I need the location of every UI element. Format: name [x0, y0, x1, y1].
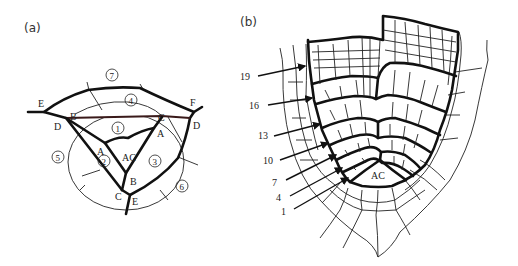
left-segment-border — [308, 40, 350, 182]
panel-b-label: (b) — [240, 15, 257, 29]
segment-7: 7 — [106, 69, 118, 81]
arrow-7 — [286, 155, 336, 180]
svg-text:1: 1 — [116, 124, 121, 134]
panel-a-label: (a) — [24, 21, 41, 35]
svg-text:3: 3 — [153, 157, 158, 167]
arrow-19 — [258, 66, 305, 76]
label-AC: AC — [371, 170, 385, 181]
label-C: C — [158, 112, 165, 123]
label-E: E — [38, 98, 44, 109]
label-13: 13 — [258, 130, 268, 141]
arrow-16 — [268, 98, 312, 105]
label-19: 19 — [240, 71, 250, 82]
segment-6: 6 — [176, 180, 188, 192]
label-C: C — [115, 191, 122, 202]
label-F: F — [190, 97, 196, 108]
label-4: 4 — [276, 192, 281, 203]
svg-text:2: 2 — [102, 157, 107, 167]
svg-text:6: 6 — [180, 182, 185, 192]
label-B: B — [70, 111, 77, 122]
segment-5: 5 — [52, 151, 64, 163]
label-16: 16 — [249, 100, 259, 111]
label-D: D — [193, 120, 200, 131]
label-A: A — [157, 128, 165, 139]
panel-a: (a) E F B D C D — [24, 21, 202, 214]
label-AC: AC — [122, 152, 136, 163]
svg-text:4: 4 — [129, 96, 134, 106]
label-B: B — [130, 176, 137, 187]
svg-text:7: 7 — [110, 71, 115, 81]
arrow-4 — [290, 168, 342, 196]
figure: (a) E F B D C D — [0, 0, 518, 266]
label-E: E — [132, 196, 138, 207]
arrow-1 — [294, 178, 348, 209]
svg-text:5: 5 — [56, 153, 61, 163]
label-7: 7 — [272, 177, 277, 188]
arrow-10 — [280, 143, 328, 160]
label-D: D — [54, 121, 61, 132]
panel-b: (b) AC — [240, 15, 488, 257]
label-1: 1 — [281, 206, 286, 217]
label-10: 10 — [263, 155, 273, 166]
